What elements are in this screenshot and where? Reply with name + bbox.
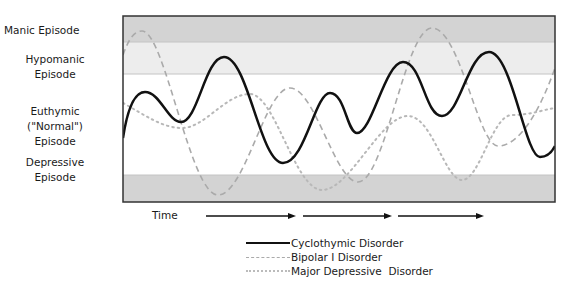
euthymic-band [123, 74, 555, 175]
hypomanic-band [123, 42, 555, 74]
legend-label: Cyclothymic Disorder [291, 236, 403, 250]
legend-item-cyclothymic: Cyclothymic Disorder [246, 236, 433, 250]
legend-label: Bipolar I Disorder [291, 250, 382, 264]
time-arrows [206, 213, 484, 219]
arrow-head-icon [384, 213, 392, 219]
solid-line-icon [246, 242, 290, 244]
arrow-head-icon [288, 213, 296, 219]
dashed-line-icon [246, 257, 290, 258]
manic-band [123, 16, 555, 42]
legend-label: Major Depressive Disorder [291, 264, 433, 278]
depressive-band [123, 175, 555, 202]
time-axis-label: Time [152, 209, 178, 221]
dotted-line-icon [246, 270, 290, 272]
arrow-head-icon [476, 213, 484, 219]
legend-item-major-depressive: Major Depressive Disorder [246, 264, 433, 278]
legend: Cyclothymic Disorder Bipolar I Disorder … [246, 236, 433, 278]
legend-item-bipolar-i: Bipolar I Disorder [246, 250, 433, 264]
